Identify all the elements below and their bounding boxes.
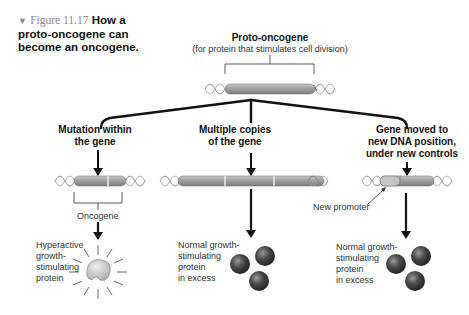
branch2-result-arrow-icon xyxy=(246,189,256,238)
branch3-result-arrow-icon xyxy=(401,193,411,239)
new-promoter-pointer-icon xyxy=(367,187,386,205)
oncogene-bracket xyxy=(74,192,122,210)
branch3-arrow-down-icon xyxy=(402,162,412,176)
diagram-graphics xyxy=(0,0,469,315)
branch3-protein-spheres-icon xyxy=(386,246,431,291)
top-bracket xyxy=(225,55,314,74)
branch1-arrow-down-icon xyxy=(93,150,103,176)
top-dna-icon xyxy=(205,84,335,94)
branch3-dna-icon xyxy=(308,176,452,186)
branch2-arrow-down-icon xyxy=(246,153,256,176)
branch1-result-arrow-icon xyxy=(93,222,103,240)
branch2-protein-spheres-icon xyxy=(230,246,275,291)
branch2-dna-icon xyxy=(160,176,324,186)
branch-lines xyxy=(101,100,407,128)
hyperactive-protein-icon xyxy=(69,245,127,299)
branch1-dna-icon xyxy=(55,176,145,186)
